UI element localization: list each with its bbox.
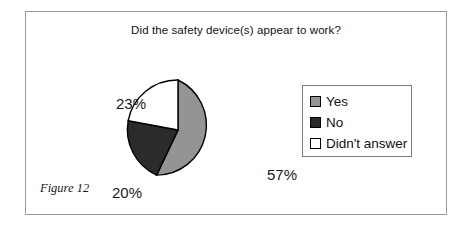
legend-label-no: No [326, 116, 343, 130]
pie-label-no: 20% [112, 184, 142, 201]
legend-label-yes: Yes [326, 95, 348, 109]
pie-label-yes: 57% [267, 166, 297, 183]
pie-label-didnt-answer: 23% [116, 95, 146, 112]
legend-swatch-yes [310, 96, 321, 107]
pie-chart: 23% 20% 57% [76, 54, 256, 184]
figure-caption: Figure 12 [40, 181, 89, 196]
legend-item-no[interactable]: No [310, 112, 411, 133]
chart-legend: Yes No Didn't answer [302, 85, 412, 157]
figure-frame: Did the safety device(s) appear to work?… [25, 11, 447, 215]
legend-swatch-didnt-answer [310, 138, 321, 149]
chart-title: Did the safety device(s) appear to work? [26, 24, 446, 36]
legend-item-didnt-answer[interactable]: Didn't answer [310, 133, 411, 154]
legend-item-yes[interactable]: Yes [310, 91, 411, 112]
pie-svg [76, 54, 256, 184]
legend-label-didnt-answer: Didn't answer [326, 137, 407, 151]
legend-swatch-no [310, 117, 321, 128]
